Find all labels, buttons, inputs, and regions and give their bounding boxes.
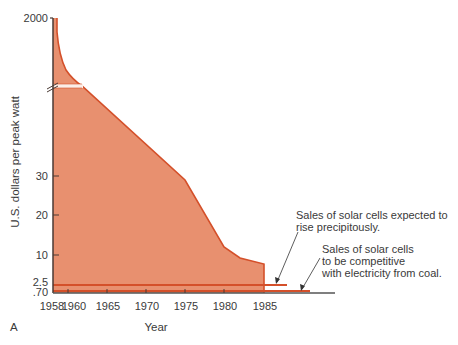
panel-label: A (10, 321, 18, 333)
x-tick-1975: 1975 (174, 300, 198, 312)
annotation-2-arrow (302, 258, 320, 289)
y-tick-30: 30 (36, 170, 48, 182)
x-tick-1980: 1980 (213, 300, 237, 312)
x-tick-1965: 1965 (96, 300, 120, 312)
annotation-2: Sales of solar cells to be competitive w… (321, 243, 442, 279)
x-tick-1985: 1985 (253, 300, 277, 312)
x-tick-1960: 1960 (62, 300, 86, 312)
y-tick-20: 20 (36, 209, 48, 221)
solar-cost-chart: 2000 30 20 10 2.5 .70 1958 1960 1965 197… (0, 0, 458, 345)
x-tick-1958: 1958 (40, 300, 64, 312)
annotation-1: Sales of solar cells expected to rise pr… (296, 209, 451, 233)
y-axis-label: U.S. dollars per peak watt (9, 95, 21, 227)
y-tick-10: 10 (36, 249, 48, 261)
y-tick-2000: 2000 (24, 12, 48, 24)
x-tick-1970: 1970 (135, 300, 159, 312)
annotation-1-arrow (277, 232, 298, 282)
y-tick-0-70: .70 (33, 286, 48, 298)
x-axis-label: Year (144, 321, 167, 333)
